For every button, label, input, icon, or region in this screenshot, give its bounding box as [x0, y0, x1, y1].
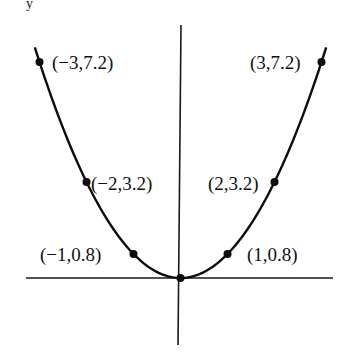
y-axis [178, 25, 181, 345]
point-label-pos2: (2,3.2) [208, 173, 259, 195]
data-point [36, 58, 44, 66]
data-point [224, 250, 232, 258]
data-point [271, 178, 279, 186]
point-label-neg3: (−3,7.2) [52, 52, 113, 74]
data-point [177, 274, 185, 282]
point-label-pos1: (1,0.8) [247, 244, 298, 266]
point-label-neg1: (−1,0.8) [40, 244, 101, 266]
parabola-chart: (−3,7.2) (3,7.2) (−2,3.2) (2,3.2) (−1,0.… [0, 0, 345, 353]
data-point [130, 250, 138, 258]
data-point [318, 58, 326, 66]
point-label-neg2: (−2,3.2) [91, 173, 152, 195]
data-point [83, 178, 91, 186]
point-label-pos3: (3,7.2) [250, 52, 301, 74]
